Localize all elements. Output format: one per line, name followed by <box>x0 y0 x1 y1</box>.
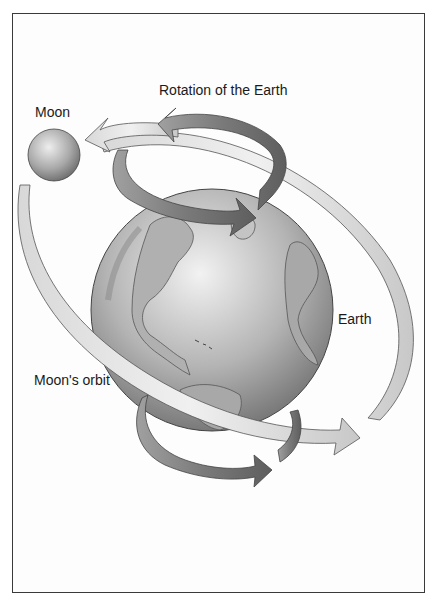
rotation-of-earth-label: Rotation of the Earth <box>159 82 287 98</box>
moon-label: Moon <box>35 104 70 120</box>
moons-orbit-label: Moon's orbit <box>34 372 110 388</box>
earth-label: Earth <box>338 311 371 327</box>
moon-sphere <box>28 129 80 181</box>
earth-globe <box>91 189 333 431</box>
